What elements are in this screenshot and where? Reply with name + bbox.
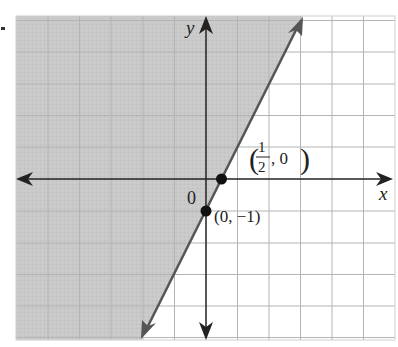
x-intercept-suffix: , 0 xyxy=(271,149,288,168)
point-y-intercept xyxy=(201,206,212,217)
inequality-graph: y x 0 ( 1 2 , 0 ) (0, −1) xyxy=(0,0,398,347)
origin-label: 0 xyxy=(187,188,196,208)
point-x-intercept xyxy=(216,174,227,185)
stray-mark xyxy=(1,27,5,30)
fraction-denominator: 2 xyxy=(258,159,266,175)
y-axis-label: y xyxy=(184,17,195,38)
svg-text:): ) xyxy=(300,142,310,176)
x-axis-label: x xyxy=(378,183,388,204)
fraction-numerator: 1 xyxy=(258,139,266,155)
y-intercept-label: (0, −1) xyxy=(214,207,260,226)
